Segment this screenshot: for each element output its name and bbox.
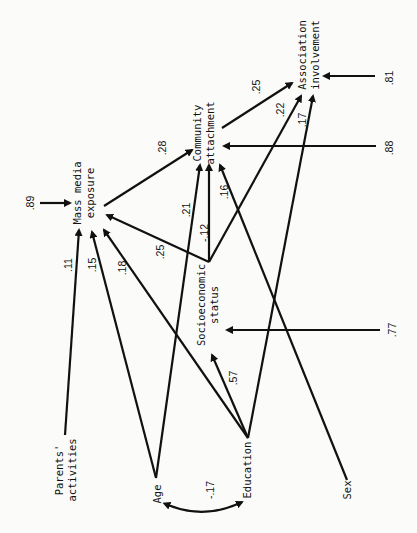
edge-sex-ca: [220, 165, 347, 480]
edge-education-ses: [212, 355, 248, 438]
coef-ses-ca: -.12: [198, 224, 210, 242]
svg-text:Age: Age: [151, 485, 163, 504]
svg-text:Socioeconomic: Socioeconomic: [195, 264, 207, 346]
coef-ca-ai: .25: [250, 80, 262, 95]
coef-ses-ai: .22: [274, 103, 286, 118]
node-sex: Sex: [341, 481, 353, 500]
svg-text:Parents': Parents': [53, 445, 65, 496]
svg-text:Mass media: Mass media: [71, 161, 83, 224]
svg-text:Sex: Sex: [341, 481, 353, 500]
coef-education-ses: .57: [227, 371, 239, 386]
coef-ses-mme: .25: [154, 245, 166, 260]
coef-residual-ca: .88: [383, 141, 395, 156]
coef-age-ca: .21: [180, 203, 192, 218]
node-mass-media-exposure: Mass media exposure: [71, 161, 96, 224]
coef-age-mme: .15: [86, 258, 98, 273]
edge-education-ai: [248, 96, 313, 438]
edge-age-education-correlation: [168, 502, 242, 512]
edge-mme-ca: [104, 150, 192, 206]
svg-text:Community: Community: [191, 105, 203, 162]
node-education: Education: [241, 442, 253, 499]
coef-residual-mme: .89: [24, 196, 36, 211]
edge-age-ca: [156, 165, 200, 478]
coef-parents-mme: .11: [62, 258, 74, 272]
coef-residual-ses: .77: [386, 323, 398, 338]
node-socioeconomic-status: Socioeconomic status: [195, 264, 220, 346]
svg-text:Association: Association: [296, 20, 308, 90]
coef-residual-ai: .81: [383, 71, 395, 86]
coef-education-ai: .17: [296, 113, 308, 128]
node-parents-activities: Parents' activities: [53, 438, 78, 501]
svg-text:attachment: attachment: [204, 101, 216, 164]
svg-text:Education: Education: [241, 442, 253, 499]
coef-mme-ca: .28: [156, 141, 168, 156]
svg-text:involvement: involvement: [309, 20, 321, 90]
node-association-involvement: Association involvement: [296, 20, 321, 90]
coef-education-mme: .18: [116, 261, 128, 276]
path-diagram: Mass media exposure Community attachment…: [0, 0, 417, 533]
node-community-attachment: Community attachment: [191, 101, 216, 164]
coef-age-education: -.17: [204, 481, 216, 499]
svg-text:activities: activities: [66, 438, 78, 501]
svg-text:status: status: [208, 286, 220, 324]
diagram-svg: Mass media exposure Community attachment…: [0, 0, 417, 533]
svg-text:exposure: exposure: [84, 168, 96, 219]
node-age: Age: [151, 485, 163, 504]
coef-sex-ca: .16: [218, 185, 230, 200]
